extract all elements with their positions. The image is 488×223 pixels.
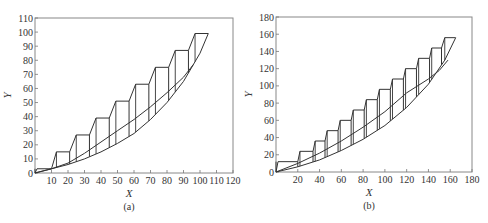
x-tick-label: 160: [443, 174, 458, 185]
staircase-line: [35, 34, 208, 174]
x-axis-a: 102030405060708090100110120: [47, 170, 241, 186]
plot-series-b: [276, 38, 456, 172]
x-tick-label: 80: [358, 174, 368, 185]
y-tick-label: 110: [18, 13, 33, 24]
y-tick-label: 40: [23, 111, 33, 122]
plot-series-a: [35, 34, 208, 174]
x-tick-label: 180: [465, 174, 480, 185]
y-tick-label: 20: [23, 139, 33, 150]
x-tick-label: 120: [226, 175, 241, 186]
x-axis-title-a: X: [125, 187, 134, 199]
middle-curve: [276, 60, 448, 172]
y-tick-label: 120: [259, 63, 274, 74]
x-tick-label: 40: [96, 175, 106, 186]
x-tick-label: 60: [129, 175, 139, 186]
y-tick-label: 60: [23, 83, 33, 94]
y-tick-label: 0: [28, 168, 33, 179]
x-tick-label: 120: [399, 174, 414, 185]
y-tick-label: 80: [264, 98, 274, 109]
y-tick-label: 0: [269, 167, 274, 178]
x-tick-label: 50: [113, 175, 123, 186]
y-axis-title-b: Y: [242, 90, 254, 98]
y-tick-label: 10: [23, 153, 33, 164]
plot-frame-a: [35, 18, 233, 173]
figure: 0102030405060708090100110 10203040506070…: [0, 0, 488, 223]
y-tick-label: 40: [264, 132, 274, 143]
y-tick-label: 80: [23, 55, 33, 66]
x-tick-label: 10: [47, 175, 57, 186]
x-axis-b: 20406080100120140160180: [293, 169, 480, 185]
y-tick-label: 30: [23, 125, 33, 136]
y-tick-label: 140: [259, 46, 274, 57]
x-tick-label: 70: [146, 175, 156, 186]
x-tick-label: 30: [80, 175, 90, 186]
x-tick-label: 100: [377, 174, 392, 185]
y-tick-label: 160: [259, 29, 274, 40]
middle-curve: [35, 65, 193, 174]
y-tick-label: 180: [259, 12, 274, 23]
y-tick-label: 90: [23, 41, 33, 52]
x-tick-label: 110: [209, 175, 224, 186]
chart-panel-a: 0102030405060708090100110 10203040506070…: [1, 13, 241, 214]
x-axis-title-b: X: [365, 186, 374, 198]
y-axis-title-a: Y: [1, 91, 13, 99]
x-tick-label: 100: [193, 175, 208, 186]
y-tick-label: 100: [259, 80, 274, 91]
plot-frame-b: [276, 17, 472, 172]
x-tick-label: 40: [315, 174, 325, 185]
x-tick-label: 80: [162, 175, 172, 186]
y-tick-label: 20: [264, 149, 274, 160]
x-tick-label: 20: [63, 175, 73, 186]
y-tick-label: 70: [23, 69, 33, 80]
x-tick-label: 60: [336, 174, 346, 185]
staircase-line: [276, 38, 456, 172]
y-tick-label: 100: [18, 27, 33, 38]
x-tick-label: 90: [179, 175, 189, 186]
x-tick-label: 140: [421, 174, 436, 185]
caption-b: (b): [363, 200, 375, 212]
caption-a: (a): [123, 201, 134, 213]
x-tick-label: 20: [293, 174, 303, 185]
y-tick-label: 50: [23, 97, 33, 108]
chart-panel-b: 020406080100120140160180 204060801001201…: [242, 12, 480, 213]
y-tick-label: 60: [264, 115, 274, 126]
